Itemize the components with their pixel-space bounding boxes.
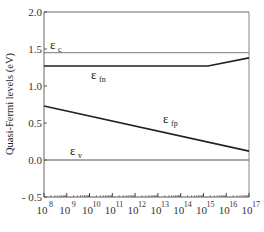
svg-text:11: 11: [115, 200, 123, 209]
svg-text:v: v: [78, 151, 82, 160]
svg-text:12: 12: [138, 200, 146, 209]
series-label-fp: εfp: [163, 111, 178, 128]
x-tick-label: 1016: [219, 200, 238, 216]
series-label-v: εv: [70, 143, 82, 160]
y-tick-label: 1.5: [28, 43, 42, 55]
svg-text:17: 17: [252, 200, 260, 209]
svg-text:15: 15: [206, 200, 214, 209]
plot-frame: [44, 12, 249, 197]
x-axis-ticks: 10810910101011101210131014101510161017: [37, 193, 261, 216]
svg-text:9: 9: [72, 200, 76, 209]
x-tick-label: 1014: [173, 200, 192, 216]
svg-text:10: 10: [93, 200, 101, 209]
series-label-c: εc: [50, 37, 62, 54]
svg-text:ε: ε: [163, 111, 169, 126]
svg-text:fp: fp: [171, 119, 178, 128]
y-axis-ticks: 2.01.51.00.50.0- 0.5: [22, 6, 47, 203]
svg-text:ε: ε: [70, 143, 76, 158]
x-tick-label: 109: [59, 200, 76, 216]
x-tick-label: 1017: [242, 200, 261, 216]
svg-text:fn: fn: [99, 75, 106, 84]
x-tick-label: 1011: [105, 200, 123, 216]
y-tick-label: 2.0: [28, 6, 42, 18]
svg-text:ε: ε: [91, 67, 97, 82]
svg-text:10: 10: [37, 204, 49, 216]
x-tick-label: 1015: [196, 200, 215, 216]
series-labels: εcεfnεfpεv: [50, 37, 178, 160]
x-tick-label: 1013: [150, 200, 169, 216]
y-tick-label: - 0.5: [22, 191, 43, 203]
series-line-fn: [44, 58, 249, 66]
svg-text:10: 10: [59, 204, 71, 216]
x-tick-label: 1012: [128, 200, 147, 216]
y-tick-label: 1.0: [28, 80, 42, 92]
series-label-fn: εfn: [91, 67, 106, 84]
svg-text:16: 16: [229, 200, 237, 209]
svg-text:14: 14: [184, 200, 192, 209]
x-tick-label: 1010: [82, 200, 101, 216]
svg-text:13: 13: [161, 200, 169, 209]
y-tick-label: 0.0: [28, 154, 42, 166]
y-axis-label: Quasi-Fermi levels (eV): [4, 52, 16, 155]
svg-text:ε: ε: [50, 37, 56, 52]
svg-text:8: 8: [49, 200, 53, 209]
y-tick-label: 0.5: [28, 117, 42, 129]
quasi-fermi-chart: 2.01.51.00.50.0- 0.5 1081091010101110121…: [0, 0, 264, 232]
svg-text:c: c: [58, 45, 62, 54]
